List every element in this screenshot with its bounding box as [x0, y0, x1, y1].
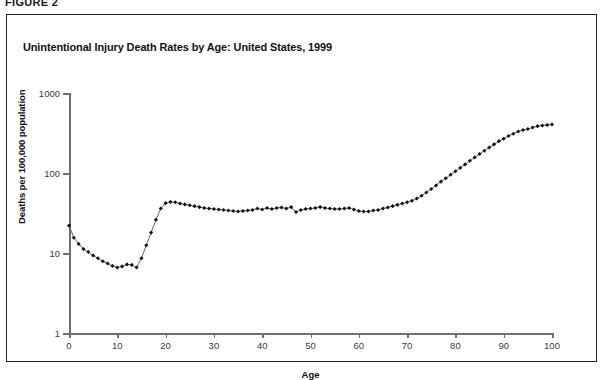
data-point — [135, 265, 139, 269]
x-tick-label-50: 50 — [305, 340, 316, 351]
figure-number-label: FIGURE 2 — [5, 0, 58, 8]
data-point — [265, 206, 269, 210]
data-point — [110, 264, 114, 268]
data-point — [178, 202, 182, 206]
data-point — [299, 208, 303, 212]
data-point — [391, 204, 395, 208]
data-point — [188, 203, 192, 207]
x-tick-label-20: 20 — [160, 340, 171, 351]
data-point — [212, 207, 216, 211]
data-point — [400, 202, 404, 206]
x-tick-label-80: 80 — [450, 340, 461, 351]
data-point — [197, 205, 201, 209]
data-point — [231, 209, 235, 213]
data-point — [371, 208, 375, 212]
series-polyline — [69, 124, 552, 267]
x-tick-20 — [166, 333, 168, 338]
data-point — [106, 261, 110, 265]
data-point — [357, 209, 361, 213]
data-point — [67, 224, 71, 228]
data-point — [405, 200, 409, 204]
data-point — [270, 207, 274, 211]
data-point — [323, 206, 327, 210]
data-point — [193, 204, 197, 208]
data-series-line — [69, 93, 552, 333]
data-point — [101, 259, 105, 263]
x-tick-60 — [359, 333, 361, 338]
data-point — [130, 263, 134, 267]
x-tick-30 — [214, 333, 216, 338]
data-point — [241, 209, 245, 213]
data-point — [502, 137, 506, 141]
data-point — [540, 123, 544, 127]
data-point — [246, 208, 250, 212]
x-tick-label-70: 70 — [402, 340, 413, 351]
data-point — [279, 205, 283, 209]
data-point — [139, 256, 143, 260]
data-point — [125, 262, 129, 266]
data-point — [236, 209, 240, 213]
data-point — [255, 206, 259, 210]
data-point — [168, 200, 172, 204]
x-tick-label-40: 40 — [257, 340, 268, 351]
data-point — [308, 206, 312, 210]
data-point — [506, 134, 510, 138]
data-point — [313, 206, 317, 210]
data-point — [202, 206, 206, 210]
x-tick-label-90: 90 — [498, 340, 509, 351]
data-point — [207, 206, 211, 210]
data-point — [144, 243, 148, 247]
x-tick-10 — [117, 333, 119, 338]
x-axis-label: Age — [69, 369, 552, 380]
data-point — [550, 122, 554, 126]
data-point — [376, 208, 380, 212]
y-tick-label-1: 1 — [55, 328, 60, 339]
data-point — [347, 206, 351, 210]
x-tick-label-100: 100 — [544, 340, 560, 351]
x-tick-90 — [504, 333, 506, 338]
data-point — [516, 129, 520, 133]
x-tick-0 — [69, 333, 71, 338]
x-tick-70 — [407, 333, 409, 338]
data-point — [410, 199, 414, 203]
data-point — [149, 231, 153, 235]
data-point — [96, 256, 100, 260]
data-point — [250, 208, 254, 212]
data-point — [260, 207, 264, 211]
x-tick-label-30: 30 — [209, 340, 220, 351]
x-tick-50 — [311, 333, 313, 338]
data-point — [337, 207, 341, 211]
data-point — [304, 207, 308, 211]
data-point — [342, 206, 346, 210]
data-point — [545, 123, 549, 127]
data-point — [531, 125, 535, 129]
data-point — [362, 209, 366, 213]
data-point — [318, 205, 322, 209]
y-tick-label-10: 10 — [49, 248, 60, 259]
data-point — [217, 207, 221, 211]
chart-title: Unintentional Injury Death Rates by Age:… — [23, 41, 332, 53]
data-point — [328, 206, 332, 210]
y-tick-label-100: 100 — [44, 168, 60, 179]
data-point — [415, 196, 419, 200]
data-point — [535, 124, 539, 128]
data-point — [120, 264, 124, 268]
data-point — [222, 208, 226, 212]
data-point — [154, 218, 158, 222]
plot-area: 1101001000 0102030405060708090100 Age — [69, 93, 552, 333]
x-tick-label-60: 60 — [354, 340, 365, 351]
data-point — [381, 206, 385, 210]
data-point — [275, 206, 279, 210]
data-point — [352, 207, 356, 211]
data-point — [333, 207, 337, 211]
data-point — [226, 208, 230, 212]
data-point — [115, 265, 119, 269]
x-tick-label-0: 0 — [66, 340, 71, 351]
data-point — [395, 203, 399, 207]
data-point — [366, 209, 370, 213]
x-tick-80 — [455, 333, 457, 338]
x-tick-100 — [552, 333, 554, 338]
data-point — [511, 132, 515, 136]
data-point — [183, 202, 187, 206]
